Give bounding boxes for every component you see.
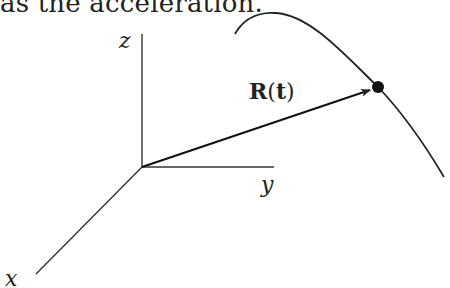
- x-axis-label: x: [5, 268, 17, 288]
- vector-label-symbol: R: [249, 78, 267, 104]
- z-axis-label: z: [119, 30, 131, 52]
- position-vector-diagram: [0, 0, 450, 288]
- y-axis-label: y: [261, 174, 273, 196]
- curve-point: [372, 81, 384, 93]
- vector-label: R(t): [249, 80, 295, 103]
- vector-label-close-paren: ): [286, 79, 295, 104]
- vector-label-open-paren: (: [267, 79, 276, 104]
- x-axis: [36, 167, 142, 274]
- vector-label-arg: t: [276, 78, 286, 104]
